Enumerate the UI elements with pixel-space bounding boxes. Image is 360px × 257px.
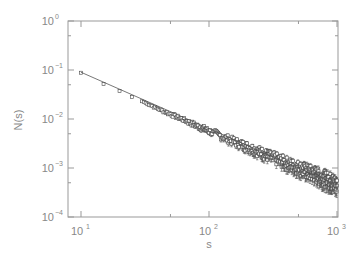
x-axis-title: s <box>206 238 212 250</box>
x-tick-exponent: 1 <box>86 223 90 230</box>
y-tick-exponent: −4 <box>55 209 63 216</box>
axis-ticks <box>68 21 338 217</box>
plot-frame <box>68 21 338 217</box>
y-axis-title: N(s) <box>12 110 24 131</box>
y-tick-label: 10 <box>42 211 54 223</box>
x-tick-label: 10 <box>71 225 83 237</box>
y-tick-label: 10 <box>42 162 54 174</box>
data-points <box>80 71 339 197</box>
y-tick-exponent: −2 <box>55 111 63 118</box>
y-tick-exponent: −1 <box>55 62 63 69</box>
y-tick-label: 10 <box>42 113 54 125</box>
power-law-chart: 10110210310010−110−210−310−4 s N(s) <box>0 0 360 257</box>
y-tick-label: 10 <box>42 64 54 76</box>
y-tick-label: 10 <box>42 15 54 27</box>
y-tick-exponent: −3 <box>55 160 63 167</box>
y-tick-exponent: 0 <box>55 13 59 20</box>
x-tick-label: 10 <box>199 225 211 237</box>
x-tick-exponent: 3 <box>342 223 346 230</box>
x-tick-label: 10 <box>327 225 339 237</box>
fit-line <box>81 72 337 185</box>
x-tick-exponent: 2 <box>214 223 218 230</box>
